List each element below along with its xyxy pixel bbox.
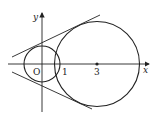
y-axis-label: y	[32, 12, 39, 22]
geometry-diagram: y x O 1 3	[0, 0, 153, 121]
upper-tangent-line	[12, 15, 100, 57]
tick-label-1: 1	[62, 67, 68, 77]
x-axis-label: x	[143, 65, 148, 75]
origin-label: O	[33, 67, 40, 77]
tick-label-3: 3	[94, 67, 100, 77]
large-circle-center-point	[95, 62, 98, 65]
